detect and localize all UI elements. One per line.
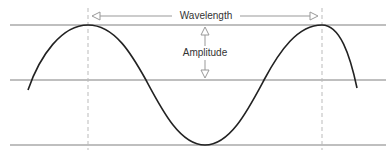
sine-wave-diagram <box>0 0 392 157</box>
wavelength-arrowhead-left-icon <box>92 12 100 20</box>
cropped-caption <box>0 151 392 157</box>
amplitude-arrowhead-down-icon <box>201 70 209 78</box>
sine-wave-curve <box>28 25 357 145</box>
wavelength-arrowhead-right-icon <box>310 12 318 20</box>
amplitude-arrowhead-up-icon <box>201 27 209 35</box>
amplitude-label: Amplitude <box>180 47 230 59</box>
wavelength-label: Wavelength <box>177 10 235 22</box>
